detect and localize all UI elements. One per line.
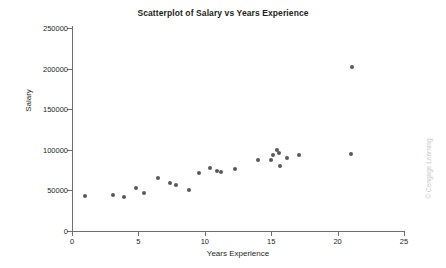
y-axis-tick-label: 200000 — [8, 64, 68, 73]
x-axis-tick-label: 5 — [118, 237, 158, 246]
data-point — [269, 158, 273, 162]
x-axis-tick — [404, 231, 405, 236]
data-point — [297, 153, 301, 157]
x-axis-tick-label: 25 — [384, 237, 424, 246]
data-point — [122, 195, 126, 199]
x-axis-tick-label: 0 — [52, 237, 92, 246]
x-axis-tick — [338, 231, 339, 236]
data-point — [174, 183, 178, 187]
x-axis-tick — [271, 231, 272, 236]
data-point — [285, 156, 289, 160]
x-axis-title: Years Experience — [72, 249, 404, 258]
scatter-chart-figure: Scatterplot of Salary vs Years Experienc… — [0, 0, 446, 268]
x-axis-tick — [138, 231, 139, 236]
x-axis-tick-label: 20 — [318, 237, 358, 246]
x-axis-tick-label: 15 — [251, 237, 291, 246]
data-point — [256, 158, 260, 162]
data-point — [142, 191, 146, 195]
y-axis-tick-label: 0 — [8, 227, 68, 236]
x-axis-tick — [205, 231, 206, 236]
data-point — [349, 152, 353, 156]
copyright-watermark: © Cengage Learning — [425, 129, 432, 209]
x-axis-tick-label: 10 — [185, 237, 225, 246]
chart-title: Scatterplot of Salary vs Years Experienc… — [0, 8, 446, 18]
x-axis-line — [71, 231, 405, 232]
plot-area — [72, 28, 404, 231]
data-point — [187, 188, 191, 192]
y-axis-title: Salary — [24, 61, 33, 141]
y-axis-tick-label: 50000 — [8, 186, 68, 195]
y-axis-tick-label: 150000 — [8, 105, 68, 114]
data-point — [219, 170, 223, 174]
x-axis-tick — [72, 231, 73, 236]
y-axis-tick-label: 100000 — [8, 145, 68, 154]
data-point — [134, 186, 138, 190]
y-axis-tick-label: 250000 — [8, 24, 68, 33]
